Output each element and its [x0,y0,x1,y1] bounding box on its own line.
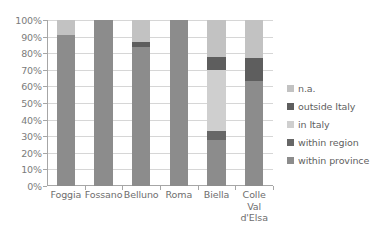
bar-segment[interactable] [207,70,225,131]
bar-segment[interactable] [94,20,112,186]
x-tick-label: Belluno [122,189,160,201]
y-tick-label: 100% [15,15,42,26]
legend-label: within province [298,155,369,166]
y-tick-mark [43,53,47,54]
x-tick-label-line: Val [235,201,273,213]
bar-segment[interactable] [207,140,225,186]
y-tick-mark [43,120,47,121]
x-tick-label: Fossano [85,189,123,201]
x-tick-label-line: Belluno [122,189,160,201]
y-tick-label: 60% [21,81,42,92]
bar-column[interactable] [170,20,188,186]
y-tick-mark [43,37,47,38]
bar-segment[interactable] [207,20,225,57]
x-tick-mark [273,186,274,190]
y-tick-label: 40% [21,114,42,125]
legend-label: in Italy [298,119,330,130]
legend-swatch-icon [287,157,294,164]
bar-segment[interactable] [57,20,75,35]
y-tick-label: 30% [21,131,42,142]
x-axis: FoggiaFossanoBellunoRomaBiellaColleVald'… [47,189,273,245]
y-tick-mark [43,186,47,187]
x-tick-label: ColleVald'Elsa [235,189,273,224]
x-tick-label-line: Biella [198,189,236,201]
legend-label: outside Italy [298,101,355,112]
y-tick-label: 10% [21,164,42,175]
bar-column[interactable] [207,20,225,186]
y-tick-mark [43,103,47,104]
bar-segment[interactable] [245,20,263,58]
x-tick-label-line: Fossano [85,189,123,201]
legend-label: within region [298,137,359,148]
y-axis: 100%90%80%70%60%50%40%30%20%10%0% [0,14,46,186]
legend-swatch-icon [287,139,294,146]
legend: n.a.outside Italyin Italywithin regionwi… [287,79,381,169]
stacked-bar-chart: 100%90%80%70%60%50%40%30%20%10%0% Foggia… [0,0,381,247]
y-tick-label: 70% [21,64,42,75]
bar-column[interactable] [57,20,75,186]
y-tick-mark [43,169,47,170]
x-tick-label: Foggia [47,189,85,201]
y-tick-label: 50% [21,98,42,109]
y-tick-label: 90% [21,31,42,42]
x-tick-label-line: Colle [235,189,273,201]
x-tick-label-line: Roma [160,189,198,201]
legend-item[interactable]: within region [287,133,381,151]
y-tick-mark [43,153,47,154]
legend-item[interactable]: outside Italy [287,97,381,115]
bar-segment[interactable] [207,57,225,70]
plot-area [47,20,273,186]
bar-segment[interactable] [132,47,150,186]
bar-column[interactable] [94,20,112,186]
bar-segment[interactable] [245,81,263,186]
bar-segment[interactable] [132,20,150,42]
legend-item[interactable]: n.a. [287,79,381,97]
x-tick-label: Biella [198,189,236,201]
y-tick-label: 20% [21,147,42,158]
legend-swatch-icon [287,121,294,128]
legend-swatch-icon [287,85,294,92]
bar-segment[interactable] [207,131,225,139]
bar-segment[interactable] [245,58,263,81]
bar-segment[interactable] [57,35,75,186]
y-tick-label: 0% [27,181,42,192]
x-tick-label: Roma [160,189,198,201]
y-tick-mark [43,70,47,71]
x-tick-label-line: d'Elsa [235,212,273,224]
y-tick-mark [43,86,47,87]
bar-column[interactable] [132,20,150,186]
legend-item[interactable]: within province [287,151,381,169]
bars-layer [47,20,273,186]
legend-label: n.a. [298,83,315,94]
x-tick-label-line: Foggia [47,189,85,201]
legend-swatch-icon [287,103,294,110]
legend-item[interactable]: in Italy [287,115,381,133]
bar-column[interactable] [245,20,263,186]
y-tick-mark [43,20,47,21]
y-tick-mark [43,136,47,137]
y-tick-label: 80% [21,48,42,59]
bar-segment[interactable] [170,20,188,186]
